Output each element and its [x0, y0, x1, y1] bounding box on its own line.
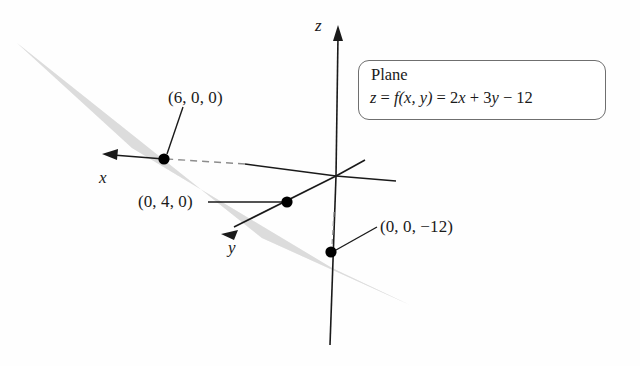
z-intercept-leader-line	[336, 227, 377, 250]
plane-figure: x y z (6, 0, 0) (0, 4, 0) (0, 0, −12) Pl…	[0, 0, 640, 366]
callout-equation: z = f(x, y) = 2x + 3y − 12	[370, 88, 533, 108]
y-axis-label: y	[228, 238, 236, 258]
callout-title: Plane	[371, 65, 408, 85]
z-intercept-point	[325, 246, 336, 257]
plane-surface-highlight	[17, 43, 410, 305]
equation-eq2: = 2	[432, 88, 458, 107]
x-axis-hidden-dashed-line	[167, 159, 245, 164]
z-axis-arrowhead	[333, 25, 343, 41]
z-axis-label: z	[315, 16, 322, 36]
plane-callout-box: Plane z = f(x, y) = 2x + 3y − 12	[358, 60, 606, 120]
equation-x: x	[458, 88, 465, 107]
plane-surface	[17, 43, 410, 305]
equation-y: y	[491, 88, 498, 107]
z-axis-positive-line	[336, 36, 338, 176]
x-intercept-leader-line	[167, 107, 183, 154]
equation-plus: + 3	[466, 88, 492, 107]
y-axis-negative-line	[336, 160, 365, 176]
x-intercept-label: (6, 0, 0)	[168, 88, 223, 108]
equation-eq1: =	[376, 88, 394, 107]
x-axis-solid-line	[245, 164, 336, 176]
equation-args: (x, y)	[399, 88, 433, 107]
x-axis-label: x	[99, 168, 107, 188]
figure-canvas	[0, 0, 640, 366]
x-axis-negative-line	[336, 176, 396, 181]
z-axis-negative-line	[330, 176, 336, 345]
z-intercept-label: (0, 0, −12)	[380, 217, 453, 237]
y-intercept-point	[281, 196, 292, 207]
equation-minus: − 12	[499, 88, 533, 107]
x-axis-arrowhead	[102, 149, 118, 160]
x-intercept-point	[158, 153, 169, 164]
y-intercept-label: (0, 4, 0)	[138, 192, 193, 212]
